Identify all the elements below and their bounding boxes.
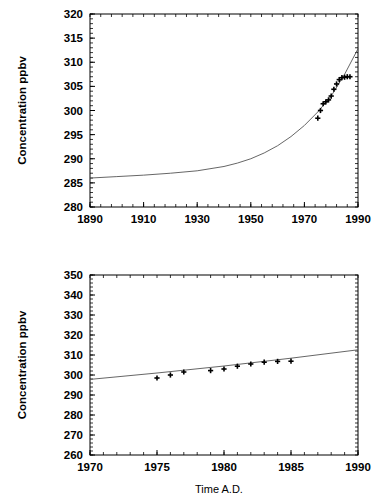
y-tick-label: 300	[64, 369, 83, 381]
y-tick-label: 270	[64, 429, 83, 441]
x-tick-label: 1980	[211, 461, 237, 473]
y-tick-label: 305	[64, 80, 84, 92]
x-tick-label: 1990	[345, 213, 371, 225]
y-tick-label: 280	[64, 409, 83, 421]
y-tick-label: 315	[64, 32, 84, 44]
y-tick-label: 310	[64, 349, 83, 361]
x-tick-label: 1970	[292, 213, 318, 225]
y-tick-label: 290	[64, 153, 83, 165]
plot-frame-top	[90, 14, 358, 207]
panel-top: 1890191019301950197019902802852902953003…	[16, 8, 371, 225]
x-tick-label: 1970	[77, 461, 103, 473]
y-tick-label: 330	[64, 309, 83, 321]
x-tick-label: 1930	[184, 213, 210, 225]
x-tick-label: 1950	[238, 213, 264, 225]
plot-frame-bottom	[90, 275, 358, 455]
x-tick-label: 1990	[345, 461, 371, 473]
x-tick-label: 1985	[278, 461, 304, 473]
chart-canvas: 1890191019301950197019902802852902953003…	[0, 0, 388, 499]
y-tick-label: 280	[64, 201, 83, 213]
series-points-bottom	[154, 359, 293, 381]
series-line-bottom	[90, 350, 358, 380]
x-tick-label: 1890	[77, 213, 103, 225]
figure-container: 1890191019301950197019902802852902953003…	[0, 0, 388, 499]
y-tick-label: 310	[64, 56, 83, 68]
y-axis-title: Concentration ppbv	[16, 56, 28, 165]
series-points-top	[315, 74, 352, 121]
y-tick-label: 260	[64, 449, 83, 461]
y-tick-label: 300	[64, 105, 83, 117]
y-tick-label: 295	[64, 129, 84, 141]
y-tick-label: 350	[64, 269, 83, 281]
y-tick-label: 320	[64, 8, 83, 20]
y-tick-label: 340	[64, 289, 83, 301]
x-axis-title: Time A.D.	[195, 483, 243, 495]
y-axis-title: Concentration ppbv	[16, 310, 28, 419]
series-line-top	[90, 49, 358, 178]
panel-bottom: 1970197519801985199026027028029030031032…	[16, 269, 371, 495]
y-tick-label: 320	[64, 329, 83, 341]
x-tick-label: 1910	[131, 213, 157, 225]
y-tick-label: 285	[64, 177, 84, 189]
x-tick-label: 1975	[144, 461, 170, 473]
y-tick-label: 290	[64, 389, 83, 401]
